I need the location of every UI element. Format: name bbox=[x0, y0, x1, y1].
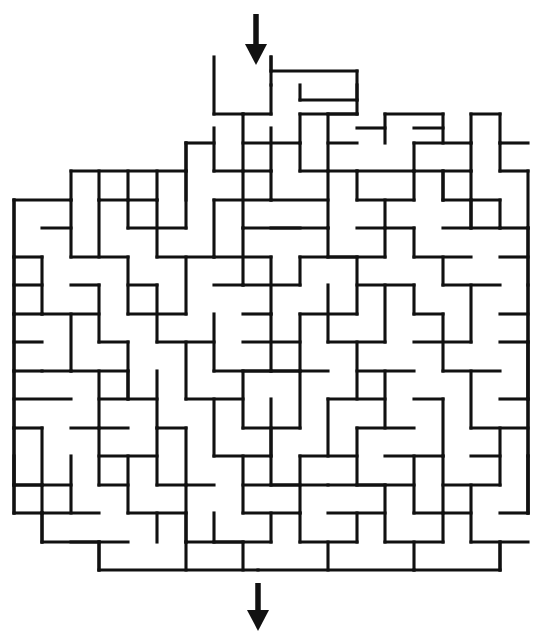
maze-page bbox=[0, 0, 542, 640]
maze-canvas bbox=[0, 0, 542, 640]
